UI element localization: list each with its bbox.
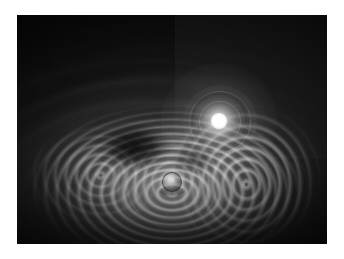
light-core — [211, 113, 227, 129]
page-canvas — [0, 0, 344, 259]
photograph — [17, 15, 327, 244]
